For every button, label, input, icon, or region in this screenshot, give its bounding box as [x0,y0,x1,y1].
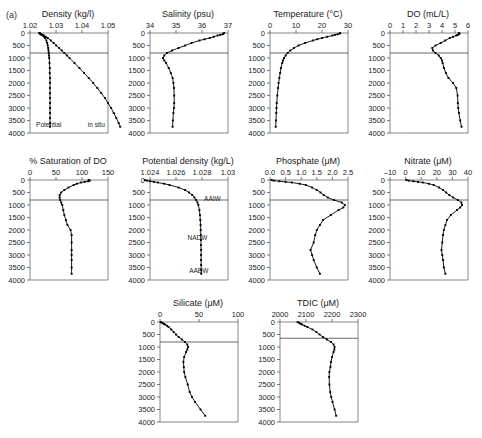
depth-axis-tick-label: 1000 [248,54,265,63]
data-point-marker [165,62,167,64]
data-point-marker [287,52,289,54]
data-point-marker [448,194,450,196]
data-point-marker [408,180,410,182]
depth-axis-tick-label: 2000 [248,226,265,235]
data-point-marker [444,40,446,42]
data-point-marker [200,254,202,256]
data-point-marker [332,401,334,403]
data-point-marker [87,180,89,182]
data-point-marker [83,72,85,74]
data-point-marker [330,361,332,363]
data-point-marker [455,87,457,89]
data-point-marker [55,45,57,47]
depth-axis-tick-label: 3000 [138,393,155,402]
data-point-marker [144,179,146,181]
data-point-marker [442,234,444,236]
data-point-marker [344,204,346,206]
x-axis-tick-label: 3 [427,21,431,30]
data-point-marker [444,273,446,275]
data-point-marker [333,199,335,201]
data-point-marker [49,87,51,89]
plot-frame [30,33,108,133]
data-point-marker [100,92,102,94]
depth-axis-tick-label: 2000 [248,79,265,88]
profile-plot: 1.0241.0261.0281.03050010001500200025003… [120,168,236,292]
data-point-marker [222,33,224,35]
profile-panel: DO (mL/L)0123456050010001500200025003000… [360,8,480,145]
data-point-marker [440,57,442,59]
plot-frame [280,322,358,422]
x-axis-tick-label: 2 [414,21,418,30]
depth-axis-tick-label: 4000 [248,129,265,138]
data-point-marker [277,87,279,89]
data-point-marker [278,82,280,84]
data-point-marker [329,391,331,393]
depth-axis-tick-label: 4000 [258,418,275,427]
profile-plot: 1.021.031.041.05050010001500200025003000… [0,21,116,145]
data-point-marker [184,341,186,343]
data-point-marker [191,194,193,196]
data-point-marker [63,189,65,191]
depth-axis-tick-label: 500 [12,41,25,50]
data-point-marker [342,207,344,209]
depth-axis-tick-label: 1500 [8,213,25,222]
data-point-marker [441,60,443,62]
data-point-marker [189,391,191,393]
data-point-marker [182,361,184,363]
data-point-marker [170,72,172,74]
depth-axis-tick-label: 3500 [368,116,385,125]
data-point-marker [157,182,159,184]
data-point-marker [170,329,172,331]
profile-plot: 0.00.51.01.52.02.50500100015002000250030… [240,168,356,292]
panel-title: DO (mL/L) [360,8,480,21]
data-point-marker [314,234,316,236]
depth-axis-tick-label: 1500 [128,66,145,75]
data-point-marker [334,346,336,348]
data-point-marker [448,77,450,79]
depth-axis-tick-label: 500 [12,188,25,197]
data-point-marker [338,209,340,211]
data-point-marker [200,224,202,226]
depth-axis-tick-label: 0 [261,176,265,185]
depth-axis-tick-label: 0 [271,318,275,327]
x-axis-tick-label: 1 [401,21,405,30]
data-point-marker [181,339,183,341]
data-point-marker [291,182,293,184]
x-axis-tick-label: 0.0 [265,168,275,177]
data-point-marker [172,112,174,114]
depth-axis-tick-label: 500 [132,41,145,50]
data-point-marker [322,336,324,338]
data-point-marker [162,57,164,59]
data-point-marker [198,209,200,211]
data-point-marker [285,55,287,57]
data-point-marker [171,50,173,52]
data-point-marker [204,38,206,40]
data-point-marker [66,224,68,226]
depth-axis-tick-label: 0 [261,29,265,38]
depth-axis-tick-label: 4000 [8,129,25,138]
plot-frame [390,180,468,280]
data-point-marker [172,82,174,84]
data-point-marker [276,102,278,104]
x-axis-tick-label: 2200 [324,310,341,319]
data-point-marker [433,184,435,186]
data-point-marker [49,107,51,109]
depth-axis-tick-label: 2500 [8,91,25,100]
data-point-marker [71,273,73,275]
depth-axis-tick-label: 3000 [8,104,25,113]
depth-axis-tick-label: 2500 [368,238,385,247]
profile-row-bottom: Silicate (μM)050100050010001500200025003… [0,297,482,434]
data-point-marker [59,199,61,201]
x-axis-tick-label: 0 [268,21,272,30]
depth-axis-tick-label: 2500 [258,380,275,389]
data-point-marker [194,197,196,199]
data-point-marker [46,42,48,44]
profile-curve [161,322,205,416]
panel-title: Salinity (psu) [120,8,240,21]
data-point-marker [164,324,166,326]
panel-title: Phosphate (μM) [240,155,360,168]
data-point-marker [312,329,314,331]
oceanographic-depth-profiles-figure: (a) Density (kg/l)1.021.031.041.05050010… [0,0,482,438]
data-point-marker [48,57,50,59]
data-point-marker [313,242,315,244]
